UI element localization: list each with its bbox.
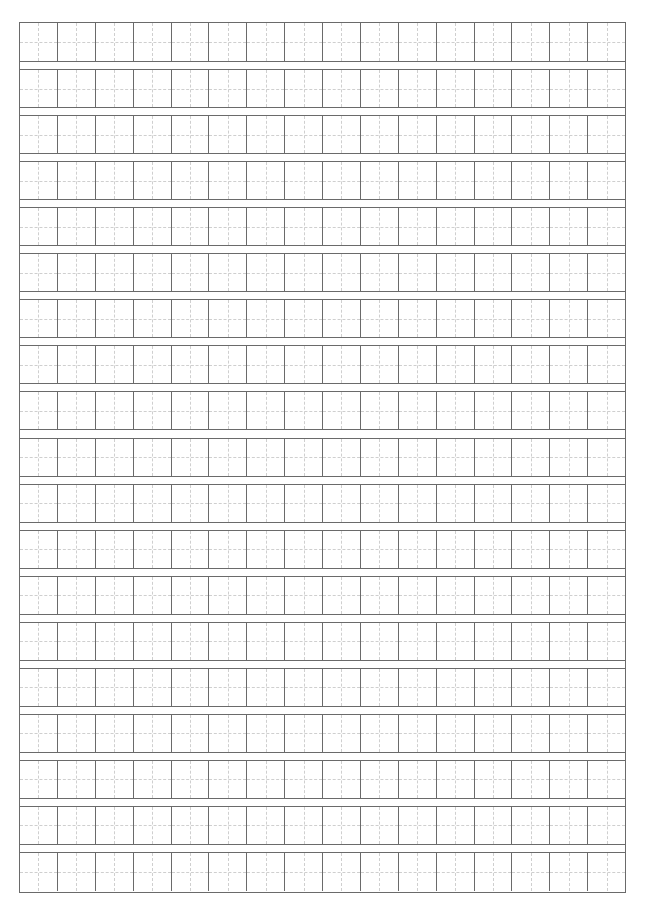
grid-cell — [20, 853, 58, 891]
grid-cell — [58, 807, 96, 844]
grid-cell — [247, 669, 285, 706]
grid-row — [20, 806, 625, 845]
grid-cell — [209, 715, 247, 752]
grid-cell — [588, 623, 625, 660]
grid-cell — [134, 70, 172, 107]
grid-cell — [475, 300, 513, 337]
grid-cell — [96, 208, 134, 245]
grid-cell — [20, 116, 58, 153]
grid-cell — [437, 392, 475, 429]
grid-cell — [134, 807, 172, 844]
grid-cell — [20, 208, 58, 245]
grid-cell — [96, 23, 134, 61]
grid-cell — [96, 485, 134, 522]
grid-row — [20, 438, 625, 477]
grid-cell — [475, 208, 513, 245]
grid-cell — [209, 761, 247, 798]
grid-cell — [550, 623, 588, 660]
grid-cell — [361, 531, 399, 568]
grid-cell — [58, 23, 96, 61]
grid-cell — [285, 577, 323, 614]
grid-cell — [209, 346, 247, 383]
grid-cell — [475, 254, 513, 291]
grid-cell — [172, 669, 210, 706]
grid-cell — [20, 346, 58, 383]
grid-cell — [58, 531, 96, 568]
grid-cell — [172, 346, 210, 383]
grid-cell — [96, 715, 134, 752]
grid-cell — [247, 577, 285, 614]
grid-cell — [361, 70, 399, 107]
grid-cell — [323, 669, 361, 706]
grid-cell — [285, 669, 323, 706]
grid-cell — [285, 485, 323, 522]
grid-cell — [323, 531, 361, 568]
grid-cell — [20, 807, 58, 844]
grid-cell — [399, 807, 437, 844]
grid-cell — [475, 531, 513, 568]
grid-cell — [58, 715, 96, 752]
grid-row — [20, 345, 625, 384]
grid-cell — [588, 23, 625, 61]
grid-cell — [247, 208, 285, 245]
grid-cell — [475, 853, 513, 891]
grid-cell — [588, 531, 625, 568]
grid-row — [20, 23, 625, 62]
grid-cell — [58, 346, 96, 383]
grid-cell — [361, 23, 399, 61]
grid-cell — [361, 116, 399, 153]
grid-cell — [172, 623, 210, 660]
grid-cell — [361, 853, 399, 891]
grid-cell — [285, 70, 323, 107]
grid-row — [20, 69, 625, 108]
grid-cell — [323, 577, 361, 614]
grid-cell — [550, 807, 588, 844]
grid-cell — [399, 623, 437, 660]
grid-cell — [550, 208, 588, 245]
grid-cell — [588, 485, 625, 522]
grid-cell — [475, 715, 513, 752]
grid-cell — [96, 392, 134, 429]
grid-cell — [172, 300, 210, 337]
grid-cell — [437, 208, 475, 245]
grid-cell — [247, 70, 285, 107]
grid-cell — [361, 439, 399, 476]
grid-cell — [437, 853, 475, 891]
grid-cell — [550, 23, 588, 61]
grid-cell — [512, 715, 550, 752]
grid-cell — [58, 577, 96, 614]
grid-cell — [285, 807, 323, 844]
grid-cell — [588, 715, 625, 752]
grid-cell — [361, 485, 399, 522]
grid-cell — [399, 577, 437, 614]
grid-cell — [96, 70, 134, 107]
grid-cell — [96, 116, 134, 153]
grid-cell — [134, 531, 172, 568]
grid-cell — [512, 70, 550, 107]
grid-cell — [399, 392, 437, 429]
grid-cell — [209, 300, 247, 337]
grid-row — [20, 760, 625, 799]
grid-cell — [550, 669, 588, 706]
grid-row — [20, 484, 625, 523]
grid-cell — [475, 162, 513, 199]
grid-cell — [134, 623, 172, 660]
grid-cell — [172, 254, 210, 291]
grid-cell — [475, 70, 513, 107]
grid-cell — [399, 485, 437, 522]
grid-cell — [323, 23, 361, 61]
grid-cell — [209, 439, 247, 476]
grid-cell — [247, 116, 285, 153]
grid-cell — [323, 70, 361, 107]
grid-cell — [361, 254, 399, 291]
grid-cell — [247, 485, 285, 522]
grid-cell — [437, 116, 475, 153]
grid-cell — [134, 485, 172, 522]
grid-cell — [361, 669, 399, 706]
grid-cell — [247, 254, 285, 291]
grid-cell — [437, 807, 475, 844]
grid-cell — [588, 254, 625, 291]
grid-cell — [247, 392, 285, 429]
grid-cell — [285, 853, 323, 891]
grid-cell — [285, 623, 323, 660]
